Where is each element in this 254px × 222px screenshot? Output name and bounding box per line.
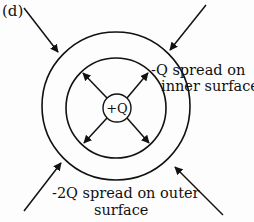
center-charge-label: +Q	[106, 101, 128, 116]
outer-surface-label-line1: -2Q spread on outer	[52, 185, 200, 201]
arrow-inner-bottom-right-outward	[127, 118, 149, 143]
panel-label: (d)	[2, 2, 23, 20]
inner-surface-label-line1: -Q spread on	[151, 62, 245, 78]
arrow-top-right-inward	[170, 5, 206, 50]
arrow-inner-top-left-outward	[83, 73, 107, 98]
arrow-top-left-inward	[24, 8, 58, 52]
arrow-inner-top-right-outward	[127, 73, 148, 98]
arrow-inner-bottom-left-outward	[84, 118, 107, 143]
inner-surface-label-line2: inner surface	[161, 78, 254, 94]
diagram-canvas: (d) +Q -Q spread on inner surface -2Q sp…	[0, 0, 254, 222]
charge-shell-diagram: (d) +Q -Q spread on inner surface -2Q sp…	[0, 0, 254, 222]
outer-surface-label-line2: surface	[94, 202, 148, 218]
